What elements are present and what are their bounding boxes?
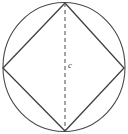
inscribed-square (3, 3, 124, 131)
geometry-figure: c (0, 0, 128, 134)
diameter-label-c: c (68, 61, 72, 70)
figure-canvas (0, 0, 128, 134)
circle-outline (3, 3, 125, 132)
